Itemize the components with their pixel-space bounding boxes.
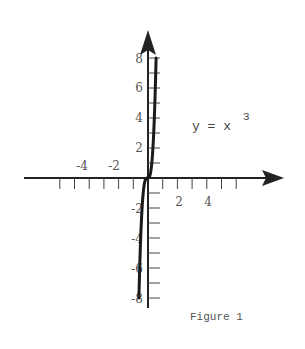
equation-exponent: 3 — [243, 111, 250, 123]
x-tick-label: -2 — [108, 159, 120, 173]
cubic-function-graph: -4 -2 2 4 8 6 4 2 -2 -4 -6 -8 y = x 3 Fi… — [0, 0, 305, 349]
figure-caption: Figure 1 — [190, 311, 243, 323]
y-tick-label: 8 — [135, 52, 143, 66]
x-tick-label: 4 — [204, 195, 212, 209]
y-tick-label: 2 — [135, 141, 143, 155]
y-tick-label: 4 — [135, 111, 143, 125]
y-tick-label: 6 — [135, 81, 143, 95]
equation-text: y = x — [192, 119, 231, 134]
x-tick-label: -4 — [76, 159, 88, 173]
x-tick-label: 2 — [175, 195, 183, 209]
y-tick-label: -8 — [131, 292, 143, 306]
equation-label: y = x 3 — [192, 111, 250, 134]
x-axis — [24, 170, 284, 189]
